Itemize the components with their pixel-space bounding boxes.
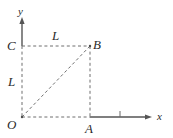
length-label-left: L [8, 75, 15, 88]
point-label-o: O [7, 118, 16, 131]
x-axis-arrow-icon [145, 114, 152, 119]
geometry-figure: y x C B O A L L [0, 0, 173, 138]
point-label-b: B [93, 38, 101, 51]
y-axis-arrow-icon [19, 17, 24, 24]
vertex-b [89, 45, 91, 47]
x-axis-label: x [157, 111, 162, 122]
diagonal-o-to-b [22, 46, 90, 117]
point-label-a: A [85, 122, 93, 135]
point-label-c: C [7, 39, 16, 52]
length-label-top: L [52, 29, 59, 42]
vertex-origin [21, 116, 23, 118]
y-axis-label: y [18, 6, 23, 17]
figure-canvas [0, 0, 173, 138]
